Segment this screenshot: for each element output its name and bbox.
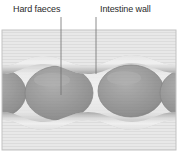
label-hard-faeces: Hard faeces bbox=[13, 4, 60, 14]
scanline-overlay bbox=[2, 30, 176, 150]
intestine-diagram bbox=[0, 0, 178, 157]
label-intestine-wall: Intestine wall bbox=[100, 4, 151, 14]
diagram-panel bbox=[0, 30, 178, 150]
